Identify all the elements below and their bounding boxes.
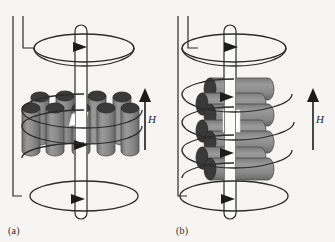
panel-b: (b) (168, 0, 335, 242)
sample-rod-front-a (75, 88, 87, 163)
particle-cylinder (97, 103, 115, 156)
figure-root: (a) H (0, 0, 335, 242)
field-arrow-a (137, 88, 153, 150)
particle-cylinder (204, 158, 274, 180)
panel-a-caption: (a) (8, 225, 20, 236)
field-label-b: H (316, 113, 324, 125)
panel-a: (a) H (0, 0, 167, 242)
panel-b-caption: (b) (176, 225, 188, 236)
